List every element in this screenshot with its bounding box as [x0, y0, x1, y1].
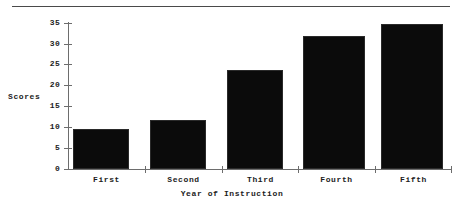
x-tick-3: [298, 166, 299, 173]
bar-first: [73, 129, 129, 170]
bar-second: [150, 120, 206, 169]
x-tick-4: [375, 166, 376, 173]
plot-area: 0 5 10 15 20 25 30 35: [0, 0, 464, 200]
y-tick-label-20: 20: [34, 81, 60, 89]
x-tick-1: [145, 166, 146, 173]
y-tick-20: [64, 85, 72, 86]
x-category-label-second: Second: [145, 176, 222, 184]
y-tick-30: [64, 44, 72, 45]
y-tick-label-10-wrap: 10: [34, 123, 60, 131]
y-tick-label-0-wrap: 0: [34, 165, 60, 173]
y-tick-label-20-wrap: 20: [34, 81, 60, 89]
y-axis-title: Scores: [8, 93, 40, 101]
y-tick-label-10: 10: [34, 123, 60, 131]
bar-third: [227, 70, 283, 169]
y-tick-5: [64, 148, 72, 149]
y-tick-0: [64, 169, 72, 170]
bar-chart-figure: 0 5 10 15 20 25 30 35: [0, 0, 464, 200]
y-tick-label-25-wrap: 25: [34, 60, 60, 68]
y-tick-label-25: 25: [34, 60, 60, 68]
y-tick-label-15-wrap: 15: [34, 102, 60, 110]
x-axis-line: [68, 169, 452, 170]
y-tick-label-30-wrap: 30: [34, 40, 60, 48]
x-category-label-fifth: Fifth: [375, 176, 452, 184]
x-axis-title: Year of Instruction: [0, 190, 464, 198]
y-tick-10: [64, 127, 72, 128]
y-tick-label-5: 5: [34, 144, 60, 152]
y-tick-label-30: 30: [34, 40, 60, 48]
y-tick-label-15: 15: [34, 102, 60, 110]
y-tick-25: [64, 64, 72, 65]
y-tick-label-35: 35: [34, 19, 60, 27]
y-tick-15: [64, 106, 72, 107]
x-category-label-third: Third: [222, 176, 299, 184]
y-tick-label-0: 0: [34, 165, 60, 173]
bar-fifth: [381, 24, 443, 169]
y-tick-35: [64, 23, 72, 24]
x-tick-2: [222, 166, 223, 173]
y-tick-label-35-wrap: 35: [34, 19, 60, 27]
x-tick-5: [451, 166, 452, 173]
y-tick-label-5-wrap: 5: [34, 144, 60, 152]
bar-fourth: [303, 36, 365, 169]
x-category-label-first: First: [68, 176, 145, 184]
x-category-label-fourth: Fourth: [298, 176, 375, 184]
